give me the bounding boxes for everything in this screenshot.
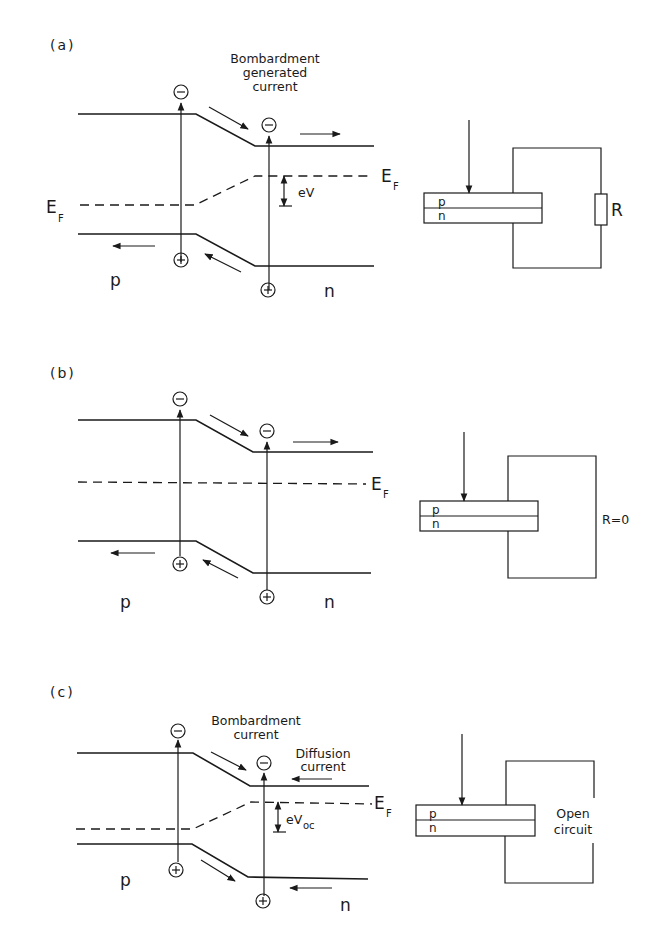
device-p-label: p [438,195,446,209]
hole-drift-arrow [205,254,241,272]
fermi-level [80,176,372,205]
pn-junction-band-diagram-figure: (a) Bombardment generated current E F E … [0,0,663,930]
p-region-label: p [120,592,131,612]
resistor-icon [595,194,607,225]
p-region-label: p [110,270,121,290]
open-circuit-wire-top [506,761,594,805]
load-label: R=0 [602,512,629,527]
hole-icon [256,894,270,908]
hole-icon [260,590,274,604]
open-circuit-label-line2: circuit [554,822,592,837]
panel-a-label: (a) [50,37,76,53]
fermi-label-right: E [371,474,382,494]
diffusion-current-label-line2: current [300,759,345,774]
device-n-label: n [429,821,437,835]
open-circuit-wire-bottom [505,836,593,883]
n-region-label: n [324,281,335,301]
valence-band [78,541,371,573]
fermi-label-right-sub: F [386,808,392,819]
open-circuit-label-line1: Open [556,806,589,821]
device-p-label: p [429,807,437,821]
fermi-label-right: E [381,166,392,186]
bombardment-current-label-line2: current [233,727,278,742]
electron-icon [173,392,187,406]
bombardment-label-line2: generated [243,65,308,80]
fermi-label-right: E [374,793,385,813]
short-circuit-wire [508,456,596,578]
bombardment-current-label-line1: Bombardment [211,713,301,728]
load-label: R [611,200,623,220]
conduction-band [78,114,374,146]
circuit-wire-top [513,148,601,194]
bombardment-label-line1: Bombardment [230,51,320,66]
hole-icon [173,557,187,571]
hole-icon [261,283,275,297]
electron-icon [260,424,274,438]
device-p-label: p [432,503,440,517]
fermi-label-left: E [46,197,57,217]
electron-icon [257,756,271,770]
ev-label: eV [298,185,315,200]
electron-icon [171,724,185,738]
fermi-level [76,802,372,829]
device-n-label: n [438,209,446,223]
bombardment-label-line3: current [252,79,297,94]
panel-b-label: (b) [50,365,76,381]
electron-icon [262,118,276,132]
fermi-level [78,482,366,484]
electron-drift-arrow [209,107,248,129]
valence-band [78,234,374,266]
device-n-label: n [432,517,440,531]
panel-b: (b) E F p n p n R=0 [50,365,629,612]
fermi-label-right-sub: F [383,489,389,500]
n-region-label: n [340,895,351,915]
hole-drift-arrow [201,860,235,881]
n-region-label: n [324,592,335,612]
panel-c-label: (c) [50,684,75,700]
electron-icon [174,85,188,99]
hole-drift-arrow [203,560,238,578]
circuit-wire-bottom [513,223,601,268]
hole-icon [169,863,183,877]
p-region-label: p [120,870,131,890]
fermi-label-right-sub: F [393,181,399,192]
panel-a: (a) Bombardment generated current E F E … [46,37,623,301]
fermi-label-left-sub: F [58,213,64,224]
conduction-band [78,420,373,452]
panel-c: (c) Bombardment current Diffusion curren… [50,684,594,915]
voc-label: eV [286,812,303,827]
voc-label-sub: oc [303,820,315,831]
electron-drift-arrow [210,415,248,436]
